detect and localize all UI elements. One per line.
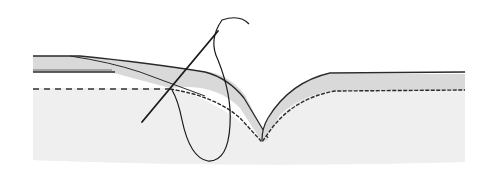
fabric-base-lower	[33, 88, 465, 165]
stitching-illustration	[0, 0, 487, 171]
illustration-canvas	[0, 0, 487, 171]
